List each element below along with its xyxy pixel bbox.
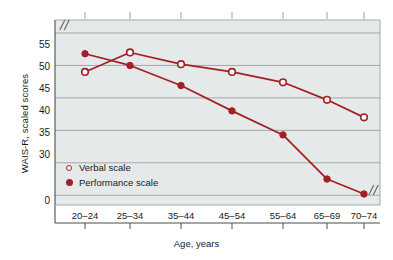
- data-point: [82, 69, 89, 76]
- x-tick-label-6: 70–74: [341, 210, 387, 221]
- filled-circle-icon: [62, 179, 76, 186]
- open-circle-icon: [62, 165, 76, 171]
- plot-area: [0, 0, 393, 260]
- legend-item-verbal-scale: Verbal scale: [62, 160, 158, 175]
- legend-label-verbal-scale: Verbal scale: [79, 162, 131, 173]
- data-point: [324, 176, 330, 182]
- data-point: [229, 108, 235, 114]
- data-point: [280, 132, 286, 138]
- x-axis-title: Age, years: [0, 238, 393, 249]
- data-point: [178, 61, 185, 68]
- y-tick-label-40: 40: [24, 105, 50, 116]
- x-tick-label-3: 45–54: [209, 210, 255, 221]
- legend-label-performance-scale: Performance scale: [79, 177, 158, 188]
- bottom-tick-marks: [85, 223, 364, 229]
- y-tick-label-55: 55: [24, 39, 50, 50]
- x-tick-label-2: 35–44: [158, 210, 204, 221]
- data-point: [82, 51, 88, 57]
- data-point: [229, 69, 236, 76]
- x-tick-label-4: 55–64: [260, 210, 306, 221]
- data-point: [324, 97, 331, 104]
- y-tick-label-0: 0: [24, 195, 50, 206]
- data-point: [178, 82, 184, 88]
- y-tick-label-35: 35: [24, 127, 50, 138]
- chart-figure: WAIS-R, scaled scores Age, years 55 50 4…: [0, 0, 393, 260]
- x-tick-label-1: 25–34: [107, 210, 153, 221]
- legend: Verbal scale Performance scale: [62, 160, 158, 190]
- x-tick-label-0: 20–24: [62, 210, 108, 221]
- top-tick-marks: [85, 12, 364, 19]
- legend-item-performance-scale: Performance scale: [62, 175, 158, 190]
- data-point: [280, 79, 287, 86]
- data-point: [127, 49, 134, 56]
- data-point: [361, 191, 367, 197]
- data-point: [127, 62, 133, 68]
- y-tick-label-50: 50: [24, 61, 50, 72]
- y-tick-label-30: 30: [24, 149, 50, 160]
- data-point: [361, 114, 368, 121]
- y-tick-label-45: 45: [24, 83, 50, 94]
